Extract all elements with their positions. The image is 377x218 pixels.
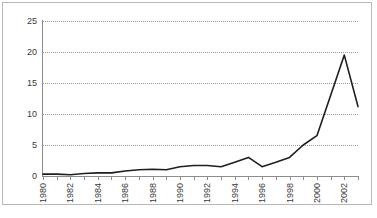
y-tick-label: 20	[7, 47, 37, 57]
x-tick-label: 2000	[312, 183, 322, 203]
x-tick	[84, 176, 85, 180]
x-tick-label: 1982	[65, 183, 75, 203]
x-tick	[194, 176, 195, 180]
x-tick-label: 1986	[120, 183, 130, 203]
x-tick-label: 1994	[230, 183, 240, 203]
x-tick-label: 2002	[339, 183, 349, 203]
x-tick-label: 1998	[285, 183, 295, 203]
y-gridline	[43, 83, 358, 84]
y-tick-label: 25	[7, 16, 37, 26]
x-tick-label: 1980	[38, 183, 48, 203]
x-tick	[166, 176, 167, 180]
x-tick	[248, 176, 249, 180]
x-tick-label: 1984	[93, 183, 103, 203]
x-tick	[207, 176, 208, 180]
x-tick	[43, 176, 44, 180]
x-tick	[331, 176, 332, 180]
x-tick	[70, 176, 71, 180]
y-gridline	[43, 21, 358, 22]
x-tick	[276, 176, 277, 180]
x-tick	[290, 176, 291, 180]
y-tick-label: 10	[7, 109, 37, 119]
x-tick	[125, 176, 126, 180]
y-gridline	[43, 52, 358, 53]
x-tick	[235, 176, 236, 180]
y-gridline	[43, 145, 358, 146]
y-tick-label: 0	[7, 171, 37, 181]
x-tick-label: 1988	[148, 183, 158, 203]
x-tick	[221, 176, 222, 180]
x-tick	[111, 176, 112, 180]
chart-frame: 0510152025 19801982198419861988199019921…	[2, 2, 372, 205]
x-tick-label: 1996	[257, 183, 267, 203]
x-tick	[317, 176, 318, 180]
x-tick	[303, 176, 304, 180]
x-tick	[358, 176, 359, 180]
x-tick-label: 1990	[175, 183, 185, 203]
x-tick	[262, 176, 263, 180]
x-tick	[98, 176, 99, 180]
x-axis-line	[42, 176, 359, 177]
y-axis-tick-labels: 0510152025	[3, 21, 37, 176]
y-tick-label: 15	[7, 78, 37, 88]
y-axis-line	[42, 20, 43, 177]
y-tick-label: 5	[7, 140, 37, 150]
x-tick	[139, 176, 140, 180]
plot-area	[43, 21, 358, 176]
x-tick	[153, 176, 154, 180]
x-tick	[180, 176, 181, 180]
y-gridline	[43, 114, 358, 115]
x-tick	[344, 176, 345, 180]
x-tick-label: 1992	[202, 183, 212, 203]
source-caption	[3, 208, 203, 217]
x-tick	[57, 176, 58, 180]
